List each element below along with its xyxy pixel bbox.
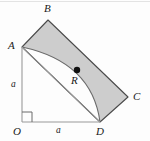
side-label-horizontal-a: a bbox=[56, 126, 61, 136]
point-label-r: R bbox=[71, 75, 78, 86]
point-r-dot bbox=[74, 67, 80, 73]
vertex-label-o: O bbox=[13, 126, 21, 137]
right-angle-marker bbox=[22, 112, 32, 122]
vertex-label-c: C bbox=[133, 91, 140, 102]
figure-canvas bbox=[0, 0, 150, 141]
vertex-label-a: A bbox=[8, 40, 15, 51]
side-label-vertical-a: a bbox=[11, 80, 16, 90]
vertex-label-d: D bbox=[96, 126, 104, 137]
geometry-figure: A B C D O R a a bbox=[0, 0, 150, 141]
vertex-label-b: B bbox=[44, 3, 51, 14]
